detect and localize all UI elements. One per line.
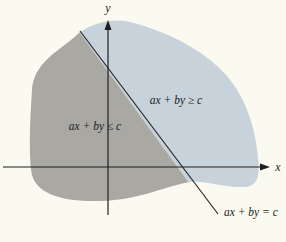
region-le-label: ax + by ≤ c [69, 120, 121, 133]
region-ge-label: ax + by ≥ c [150, 94, 202, 107]
boundary-line-label: ax + by = c [224, 206, 278, 219]
inequality-diagram: y x ax + by ≥ c ax + by ≤ c ax + by = c [0, 0, 286, 242]
x-axis-label: x [274, 160, 281, 174]
y-axis-label: y [104, 1, 111, 15]
x-axis-arrow-icon [260, 164, 270, 171]
